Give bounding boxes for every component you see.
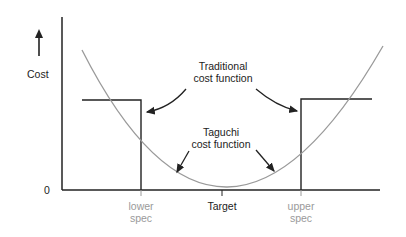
zero-label: 0 [44,184,50,196]
lower-spec-label: lower spec [121,200,161,224]
traditional-label-line1: Traditional [183,60,263,72]
traditional-arrow-left [147,89,186,112]
taguchi-label-line1: Taguchi [186,126,256,138]
up-arrow-icon [35,29,43,56]
traditional-label-line2: cost function [183,72,263,84]
traditional-arrow-right [256,89,297,111]
taguchi-arrow-right [256,150,274,171]
target-label: Target [197,200,247,212]
traditional-label: Traditional cost function [183,60,263,84]
taguchi-label-line2: cost function [186,138,256,150]
upper-spec-line1: upper [281,200,321,212]
y-axis-label: Cost [27,68,49,80]
lower-spec-line2: spec [121,212,161,224]
upper-spec-line2: spec [281,212,321,224]
taguchi-arrow-left [177,151,189,172]
lower-spec-line1: lower [121,200,161,212]
target-line1: Target [197,200,247,212]
taguchi-label: Taguchi cost function [186,126,256,150]
upper-spec-label: upper spec [281,200,321,224]
